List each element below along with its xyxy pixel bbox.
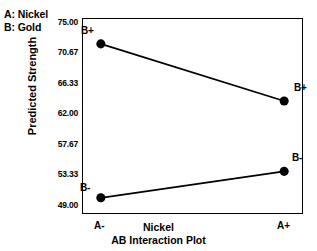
- y-tick-label-3: 62.00: [38, 108, 78, 118]
- plot-caption: AB Interaction Plot: [0, 234, 317, 246]
- y-tick-label-6: 49.00: [38, 200, 78, 210]
- x-axis-title: Nickel: [0, 221, 317, 233]
- data-point-b-plus-a-minus[interactable]: [96, 39, 105, 48]
- point-label-b-minus-a-plus: B-: [292, 152, 302, 163]
- series-line-b-minus: [101, 171, 284, 197]
- y-tick-label-1: 70.67: [38, 47, 78, 57]
- interaction-lines-svg: [83, 19, 302, 213]
- series-line-b-plus: [101, 44, 284, 101]
- point-label-b-plus-a-minus: B+: [81, 25, 94, 36]
- interaction-plot-figure: A: Nickel B: Gold Predicted Strength 75.…: [0, 0, 317, 251]
- data-point-b-minus-a-minus[interactable]: [96, 193, 105, 202]
- data-point-b-minus-a-plus[interactable]: [280, 167, 289, 176]
- y-tick-label-4: 57.67: [38, 139, 78, 149]
- data-point-b-plus-a-plus[interactable]: [280, 96, 289, 105]
- y-tick-label-5: 53.33: [38, 169, 78, 179]
- point-label-b-minus-a-minus: B-: [80, 182, 90, 193]
- y-tick-label-0: 75.00: [38, 17, 78, 27]
- plot-area: B+ B+ B- B-: [82, 18, 303, 214]
- y-axis-tick-labels: 75.00 70.67 66.33 62.00 57.67 53.33 49.0…: [36, 0, 78, 251]
- y-tick-label-2: 66.33: [38, 78, 78, 88]
- point-label-b-plus-a-plus: B+: [294, 82, 307, 93]
